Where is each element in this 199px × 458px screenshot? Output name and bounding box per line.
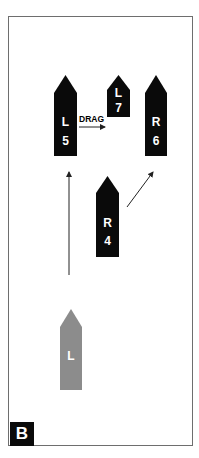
panel-label: B [16,424,28,444]
boat-number-label: 6 [153,134,160,148]
boat-number-label: 7 [115,101,122,115]
diagonal-arrow-icon [127,172,153,207]
boat-l5: L5 [54,75,77,156]
boat-positions-diagram: L5L7R6R4L DRAG [0,0,199,458]
boat-side-label: L [115,86,122,100]
boat-l-start: L [60,309,82,390]
boat-side-label: R [103,216,112,230]
boat-r4: R4 [96,176,119,257]
drag-label: DRAG [79,114,104,124]
boats: L5L7R6R4L [54,75,167,390]
boat-side-label: L [62,115,69,129]
panel-label-badge: B [10,422,34,446]
boat-l7: L7 [107,75,130,117]
boat-number-label: 5 [62,134,69,148]
boat-r6: R6 [145,75,167,156]
boat-side-label: R [152,115,161,129]
boat-number-label: 4 [104,234,111,248]
boat-side-label: L [67,349,74,363]
